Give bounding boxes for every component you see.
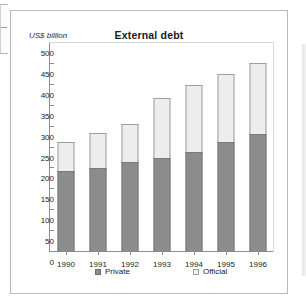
bar-segment-official[interactable] [154,98,171,158]
bar-segment-official[interactable] [90,133,107,169]
bar-segment-private[interactable] [218,142,235,251]
plot-area: 050100150200250300350400450500 199019911… [49,42,274,252]
bar-segment-private[interactable] [250,134,267,251]
stacked-bar[interactable] [250,63,267,251]
y-axis-tick-label: 0 [50,259,54,267]
bar-segment-official[interactable] [186,85,203,152]
clipped-right-page-element [301,44,306,276]
bar-series-container: 1990199119921993199419951996 [50,42,274,251]
x-axis-tick-mark [130,251,131,255]
x-axis-tick-mark [162,251,163,255]
bar-segment-official[interactable] [122,124,139,162]
bar-segment-official[interactable] [218,74,235,142]
stacked-bar[interactable] [154,98,171,251]
bar-group[interactable]: 1991 [83,42,113,251]
bar-segment-private[interactable] [90,168,107,251]
stacked-bar[interactable] [122,124,139,251]
legend-label-private: Private [105,267,130,276]
legend-item-private: Private [95,267,130,276]
bar-segment-official[interactable] [250,63,267,134]
bar-group[interactable]: 1996 [243,42,273,251]
x-axis-tick-mark [194,251,195,255]
bar-segment-private[interactable] [58,171,75,251]
clipped-left-page-element [0,4,8,54]
bar-group[interactable]: 1993 [147,42,177,251]
legend-item-official: Official [193,267,227,276]
y-axis-unit-label: US$ billion [29,31,67,40]
x-axis-tick-mark [66,251,67,255]
bar-segment-private[interactable] [154,158,171,251]
chart-legend: Private Official [49,267,274,279]
legend-swatch-private-icon [95,269,101,275]
chart-figure-card: External debt US$ billion 05010015020025… [10,10,288,294]
stacked-bar[interactable] [90,133,107,251]
legend-swatch-official-icon [193,269,199,275]
x-axis-tick-mark [98,251,99,255]
bar-group[interactable]: 1994 [179,42,209,251]
bar-group[interactable]: 1990 [51,42,81,251]
bar-segment-private[interactable] [122,162,139,251]
stacked-bar[interactable] [58,142,75,251]
bar-segment-private[interactable] [186,152,203,251]
x-axis-tick-mark [226,251,227,255]
clipped-left-tick [1,27,7,28]
bar-segment-official[interactable] [58,142,75,171]
bar-group[interactable]: 1992 [115,42,145,251]
stacked-bar[interactable] [186,85,203,251]
legend-label-official: Official [203,267,227,276]
bar-group[interactable]: 1995 [211,42,241,251]
x-axis-tick-mark [258,251,259,255]
stacked-bar[interactable] [218,74,235,251]
y-axis-tick-mark [50,251,54,252]
